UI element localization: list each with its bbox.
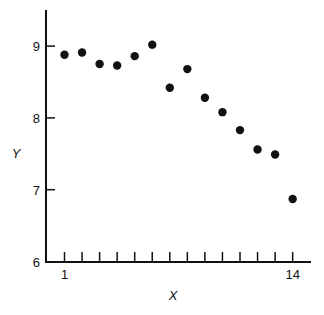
x-tick-label: 14 <box>285 267 299 282</box>
y-tick-label: 6 <box>33 255 40 270</box>
y-axis-title: Y <box>12 146 22 161</box>
y-tick-label: 7 <box>33 183 40 198</box>
data-point <box>113 61 121 69</box>
data-point <box>236 126 244 134</box>
data-point <box>131 52 139 60</box>
data-point <box>271 150 279 158</box>
data-point <box>95 60 103 68</box>
data-point <box>60 51 68 59</box>
data-points <box>60 40 297 203</box>
data-point <box>183 65 191 73</box>
data-point <box>148 40 156 48</box>
data-point <box>288 195 296 203</box>
x-axis-ticks: 114 <box>61 252 300 282</box>
y-axis-ticks: 6789 <box>33 39 55 269</box>
scatter-chart: 114 6789 X Y <box>0 0 324 315</box>
chart-canvas: 114 6789 X Y <box>0 0 324 315</box>
y-tick-label: 9 <box>33 39 40 54</box>
x-tick-label: 1 <box>61 267 68 282</box>
x-axis-title: X <box>168 288 179 303</box>
data-point <box>201 94 209 102</box>
axes <box>45 10 311 263</box>
data-point <box>166 84 174 92</box>
data-point <box>218 108 226 116</box>
y-tick-label: 8 <box>33 111 40 126</box>
data-point <box>78 48 86 56</box>
data-point <box>253 145 261 153</box>
